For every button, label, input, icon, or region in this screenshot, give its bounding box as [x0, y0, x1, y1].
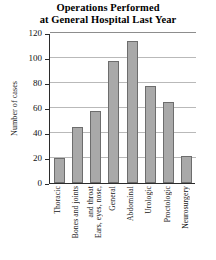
x-label-5-line-0: Urologic [145, 186, 153, 214]
y-tick-label-0: 0 [38, 178, 43, 188]
y-tick-label-20: 20 [33, 153, 42, 163]
bar-2 [90, 111, 101, 184]
x-label-4-line-0: Abdominal [127, 186, 135, 221]
x-label-7-line-0: Neurosurgery [182, 186, 190, 229]
x-axis-labels: ThoracicBones and jointsEars, eyes, nose… [49, 186, 195, 260]
x-label-3-line-0: General [109, 186, 117, 211]
bar-3 [108, 61, 119, 184]
bar-4 [127, 41, 138, 184]
x-label-1-line-0: Bones and joints [72, 186, 80, 238]
x-label-7: Neurosurgery [177, 186, 195, 260]
y-axis-ticks: 020406080100120 [0, 0, 49, 260]
y-tick-mark-0 [45, 184, 49, 185]
x-label-0-line-0: Thoracic [54, 186, 62, 214]
plot-area [49, 34, 195, 184]
x-label-6-line-0: Proctologic [164, 186, 172, 222]
y-tick-label-100: 100 [29, 53, 43, 63]
x-label-2: Ears, eyes, nose,and throat [86, 186, 104, 260]
bar-chart: Operations Performed at General Hospital… [0, 0, 216, 260]
x-label-5: Urologic [140, 186, 158, 260]
x-label-0: Thoracic [49, 186, 67, 260]
bar-0 [54, 158, 65, 183]
bar-5 [145, 86, 156, 184]
x-label-3: General [104, 186, 122, 260]
bar-6 [163, 102, 174, 183]
x-label-4: Abdominal [122, 186, 140, 260]
x-label-2-line-1: and throat [87, 186, 95, 218]
bars-group [50, 33, 196, 183]
bar-7 [181, 156, 192, 184]
x-label-2-line-0: Ears, eyes, nose, [95, 186, 103, 238]
y-tick-label-120: 120 [29, 28, 43, 38]
y-tick-label-80: 80 [33, 78, 42, 88]
y-tick-label-40: 40 [33, 128, 42, 138]
bar-1 [72, 127, 83, 183]
y-tick-label-60: 60 [33, 103, 42, 113]
x-label-6: Proctologic [159, 186, 177, 260]
x-label-1: Bones and joints [67, 186, 85, 260]
